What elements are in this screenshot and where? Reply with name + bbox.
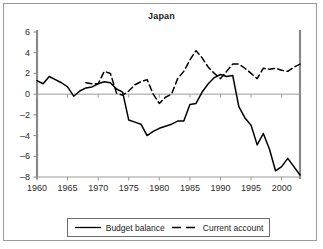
x-axis-tick-label: 1965: [51, 183, 85, 193]
legend-item-budget-balance: Budget balance: [74, 223, 165, 233]
y-axis-tick-label: 2: [8, 68, 30, 78]
plot-area: [0, 0, 323, 249]
legend-item-current-account: Current account: [171, 223, 263, 233]
y-axis-tick-label: 4: [8, 48, 30, 58]
x-axis-tick-label: 2000: [265, 183, 299, 193]
x-axis-tick-label: 1970: [81, 183, 115, 193]
y-axis-tick-label: –2: [8, 110, 30, 120]
y-axis-tick-label: –6: [8, 151, 30, 161]
legend-swatch-dashed-icon: [171, 224, 199, 231]
x-axis-tick-label: 1975: [112, 183, 146, 193]
x-axis-tick-label: 1980: [142, 183, 176, 193]
x-axis-tick-label: 1995: [234, 183, 268, 193]
chart-figure: Japan 6420–2–4–6–8 196019651970197519801…: [0, 0, 323, 249]
x-axis-tick-label: 1990: [203, 183, 237, 193]
chart-legend: Budget balance Current account: [67, 218, 270, 237]
y-axis-tick-label: 0: [8, 89, 30, 99]
series-line-budget-balance: [37, 74, 300, 174]
series-layer: [37, 51, 300, 175]
x-axis-tick-label: 1960: [20, 183, 54, 193]
y-axis-tick-label: 6: [8, 27, 30, 37]
y-axis-tick-label: –8: [8, 172, 30, 182]
x-axis-tick-label: 1985: [173, 183, 207, 193]
axes-layer: [34, 30, 301, 181]
legend-label-current-account: Current account: [203, 223, 263, 233]
series-line-current-account: [86, 51, 300, 104]
legend-swatch-solid-icon: [74, 224, 102, 231]
y-axis-tick-label: –4: [8, 131, 30, 141]
legend-label-budget-balance: Budget balance: [106, 223, 165, 233]
